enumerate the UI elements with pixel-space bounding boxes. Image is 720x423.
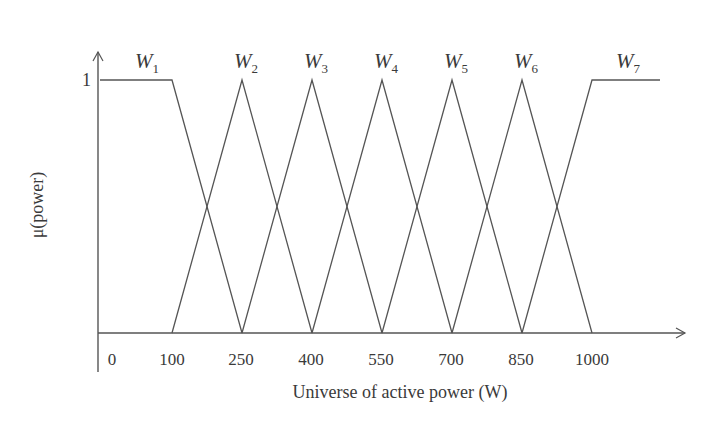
label-w6: W6 [514, 49, 539, 76]
x-tick-100: 100 [159, 350, 185, 369]
x-tick-250: 250 [228, 350, 254, 369]
membership-labels: W1W2W3W4W5W6W7 [135, 49, 641, 76]
label-w3: W3 [304, 49, 328, 76]
membership-w5 [382, 80, 522, 333]
label-w4: W4 [374, 49, 399, 76]
x-tick-550: 550 [368, 350, 394, 369]
x-tick-700: 700 [438, 350, 464, 369]
membership-lines [100, 80, 660, 333]
x-tick-1000: 1000 [575, 350, 609, 369]
membership-function-chart: W1W2W3W4W5W6W7 01002504005507008501000 1… [0, 0, 720, 423]
membership-w1 [100, 80, 242, 333]
label-w2: W2 [234, 49, 258, 76]
x-axis-label: Universe of active power (W) [293, 382, 508, 403]
membership-w3 [242, 80, 382, 333]
membership-w7 [522, 80, 660, 333]
x-tick-labels: 01002504005507008501000 [108, 350, 609, 369]
membership-w2 [172, 80, 312, 333]
x-tick-850: 850 [508, 350, 534, 369]
y-axis-label: μ(power) [27, 172, 48, 239]
membership-w6 [452, 80, 592, 333]
y-tick-one: 1 [82, 70, 91, 90]
x-tick-0: 0 [108, 350, 117, 369]
label-w5: W5 [444, 49, 468, 76]
membership-w4 [312, 80, 452, 333]
label-w1: W1 [135, 49, 159, 76]
label-w7: W7 [616, 49, 641, 76]
x-tick-400: 400 [298, 350, 324, 369]
